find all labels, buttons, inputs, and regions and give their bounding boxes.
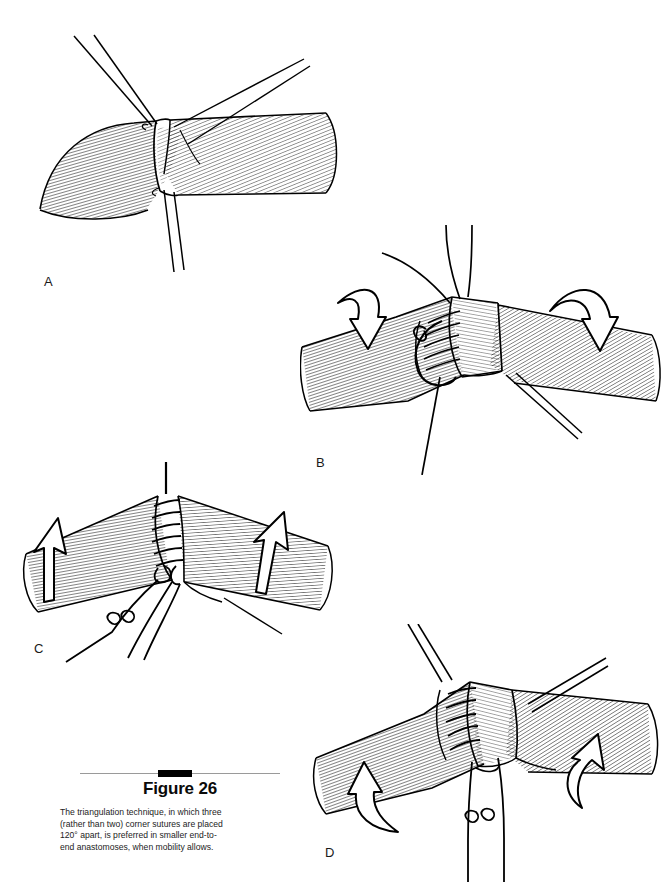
panel-label-d: D — [325, 845, 335, 860]
figure-rule — [80, 768, 280, 778]
figure-caption-block: Figure 26 The triangulation technique, i… — [60, 768, 300, 853]
panel-label-c: C — [34, 641, 44, 656]
caption-line: (rather than two) corner sutures are pla… — [60, 819, 286, 831]
caption-line: 120° apart, is preferred in smaller end-… — [60, 830, 286, 842]
panel-b-illustration — [300, 225, 668, 475]
caption-line: The triangulation technique, in which th… — [60, 807, 286, 819]
figure-page: A — [0, 0, 672, 887]
cropped-header-text — [0, 0, 672, 1]
panel-d-illustration — [312, 624, 672, 882]
figure-title: Figure 26 — [60, 779, 300, 799]
figure-rule-block — [158, 770, 192, 777]
panel-c-illustration — [8, 462, 356, 672]
figure-caption-text: The triangulation technique, in which th… — [60, 807, 286, 853]
panel-label-a: A — [44, 274, 53, 289]
caption-line: end anastomoses, when mobility allows. — [60, 842, 286, 854]
